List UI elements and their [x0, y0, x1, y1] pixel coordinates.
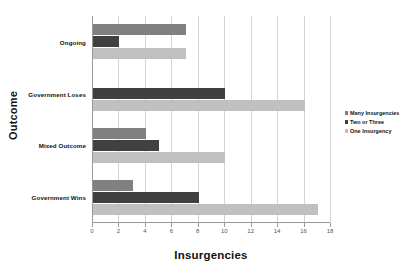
x-tick-label: 12: [241, 228, 261, 234]
bar: [93, 48, 186, 59]
y-tick-label: Government Loses: [20, 90, 86, 97]
x-tick-mark: [145, 223, 146, 227]
x-tick-label: 14: [267, 228, 287, 234]
bar: [93, 100, 305, 111]
bar: [93, 204, 318, 215]
bar: [93, 128, 146, 139]
x-tick-mark: [330, 223, 331, 227]
x-tick-mark: [198, 223, 199, 227]
x-tick-mark: [277, 223, 278, 227]
x-axis-tick-marks: [92, 223, 330, 227]
legend-item[interactable]: Many Insurgencies: [345, 109, 415, 117]
bar: [93, 88, 225, 99]
legend-swatch-icon: [345, 120, 348, 124]
x-tick-label: 8: [188, 228, 208, 234]
y-tick-label: Ongoing: [20, 38, 86, 45]
gridline: [304, 16, 305, 223]
bar: [93, 36, 119, 47]
x-tick-label: 18: [320, 228, 340, 234]
legend-label: Two or Three: [350, 119, 384, 125]
y-tick-label: Mixed Outcome: [20, 142, 86, 149]
x-axis-tick-labels: 024681012141618: [92, 228, 330, 240]
legend-swatch-icon: [345, 129, 348, 133]
y-tick-label: Government Wins: [20, 194, 86, 201]
bar: [93, 152, 225, 163]
gridline: [251, 16, 252, 223]
y-axis-line: [92, 16, 93, 223]
x-tick-mark: [118, 223, 119, 227]
legend-swatch-icon: [345, 111, 348, 115]
y-axis-tick-labels: OngoingGovernment LosesMixed OutcomeGove…: [22, 16, 90, 223]
bar: [93, 24, 186, 35]
x-axis-title: Insurgencies: [92, 249, 330, 261]
x-tick-label: 10: [214, 228, 234, 234]
chart-legend: Many InsurgenciesTwo or ThreeOne Insurge…: [345, 109, 415, 136]
x-tick-label: 4: [135, 228, 155, 234]
x-tick-mark: [251, 223, 252, 227]
x-tick-mark: [304, 223, 305, 227]
legend-item[interactable]: One Insurgency: [345, 127, 415, 135]
bar: [93, 180, 133, 191]
gridline: [277, 16, 278, 223]
x-tick-mark: [171, 223, 172, 227]
gridline: [224, 16, 225, 223]
x-tick-label: 2: [108, 228, 128, 234]
x-tick-label: 0: [82, 228, 102, 234]
x-tick-label: 16: [294, 228, 314, 234]
x-tick-label: 6: [161, 228, 181, 234]
gridline: [330, 16, 331, 223]
bar: [93, 140, 159, 151]
legend-label: Many Insurgencies: [350, 110, 399, 116]
plot-area: [92, 16, 330, 223]
legend-label: One Insurgency: [350, 128, 391, 134]
bar-chart-figure: Outcome OngoingGovernment LosesMixed Out…: [0, 0, 417, 273]
x-tick-mark: [224, 223, 225, 227]
bar: [93, 192, 199, 203]
legend-item[interactable]: Two or Three: [345, 118, 415, 126]
x-tick-mark: [92, 223, 93, 227]
